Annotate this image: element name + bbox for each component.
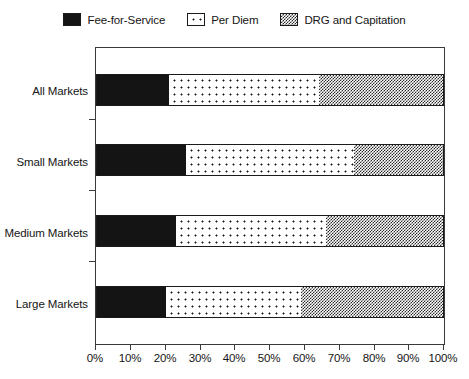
x-axis-tick bbox=[234, 344, 235, 350]
legend-swatch-icon-fee-for-service bbox=[63, 13, 81, 26]
bar-segment-fee-for-service bbox=[96, 215, 176, 247]
stacked-bar-chart: Fee-for-Service Per Diem DRG and Capitat… bbox=[0, 0, 469, 379]
x-axis-label-100: 100% bbox=[420, 352, 466, 364]
x-axis-tick bbox=[339, 344, 340, 350]
bar-segment-fee-for-service bbox=[96, 286, 166, 318]
x-axis-tick bbox=[443, 344, 444, 350]
chart-legend: Fee-for-Service Per Diem DRG and Capitat… bbox=[0, 13, 469, 26]
bar-row bbox=[96, 144, 444, 176]
plot-area bbox=[95, 47, 445, 345]
bar-row bbox=[96, 74, 444, 106]
legend-item-per-diem: Per Diem bbox=[187, 13, 258, 26]
legend-swatch-icon-per-diem bbox=[187, 13, 205, 26]
legend-item-fee-for-service: Fee-for-Service bbox=[63, 13, 165, 26]
y-axis-label-medium-markets: Medium Markets bbox=[0, 227, 88, 239]
x-axis-tick bbox=[165, 344, 166, 350]
x-axis-tick bbox=[95, 344, 96, 350]
bar-segment-per-diem bbox=[169, 74, 319, 106]
bar-segment-drg-and-capitation bbox=[354, 144, 444, 176]
legend-label-per-diem: Per Diem bbox=[211, 14, 258, 26]
bar-segment-fee-for-service bbox=[96, 74, 169, 106]
y-axis-tick bbox=[89, 119, 95, 120]
y-axis-label-all-markets: All Markets bbox=[0, 85, 88, 97]
legend-label-drg-and-capitation: DRG and Capitation bbox=[304, 14, 405, 26]
y-axis-label-small-markets: Small Markets bbox=[0, 156, 88, 168]
bar-segment-fee-for-service bbox=[96, 144, 186, 176]
x-axis-tick bbox=[200, 344, 201, 350]
y-axis-label-large-markets: Large Markets bbox=[0, 298, 88, 310]
bar-segment-per-diem bbox=[186, 144, 353, 176]
bar-segment-drg-and-capitation bbox=[319, 74, 444, 106]
bar-segment-per-diem bbox=[176, 215, 326, 247]
x-axis-tick bbox=[374, 344, 375, 350]
bar-row bbox=[96, 286, 444, 318]
bar-segment-drg-and-capitation bbox=[326, 215, 444, 247]
legend-swatch-icon-drg-and-capitation bbox=[280, 13, 298, 26]
bar-segment-drg-and-capitation bbox=[301, 286, 444, 318]
y-axis-tick bbox=[89, 190, 95, 191]
legend-label-fee-for-service: Fee-for-Service bbox=[87, 14, 165, 26]
bar-row bbox=[96, 215, 444, 247]
x-axis-tick bbox=[408, 344, 409, 350]
x-axis-tick bbox=[130, 344, 131, 350]
x-axis-tick bbox=[269, 344, 270, 350]
legend-item-drg-and-capitation: DRG and Capitation bbox=[280, 13, 405, 26]
x-axis-tick bbox=[304, 344, 305, 350]
bar-segment-per-diem bbox=[166, 286, 302, 318]
y-axis-tick bbox=[89, 261, 95, 262]
